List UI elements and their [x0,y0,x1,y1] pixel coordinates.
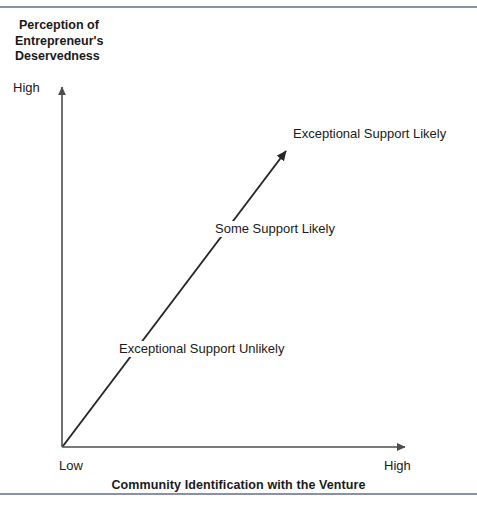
running-head [0,0,477,5]
annotation-exceptional-support-unlikely: Exceptional Support Unlikely [117,341,286,357]
figure-page: Perception of Entrepreneur's Deservednes… [0,0,477,508]
annotation-exceptional-support-likely: Exceptional Support Likely [291,126,448,142]
figure-body: Perception of Entrepreneur's Deservednes… [0,8,477,493]
annotation-some-support-likely: Some Support Likely [213,221,337,237]
x-axis-low-label: Low [59,458,83,474]
y-axis-caption-line2: Entrepreneur's [15,34,103,50]
y-axis-high-label: High [13,80,40,96]
bottom-rule [0,493,477,495]
y-axis-caption: Perception of Entrepreneur's Deservednes… [19,18,103,65]
chart-canvas [0,8,477,493]
diagonal-trend-arrow [63,151,286,446]
x-axis-high-label: High [384,458,411,474]
y-axis-caption-line3: Deservedness [15,49,103,65]
y-axis-caption-line1: Perception of [19,18,103,34]
x-axis-title: Community Identification with the Ventur… [0,478,477,492]
